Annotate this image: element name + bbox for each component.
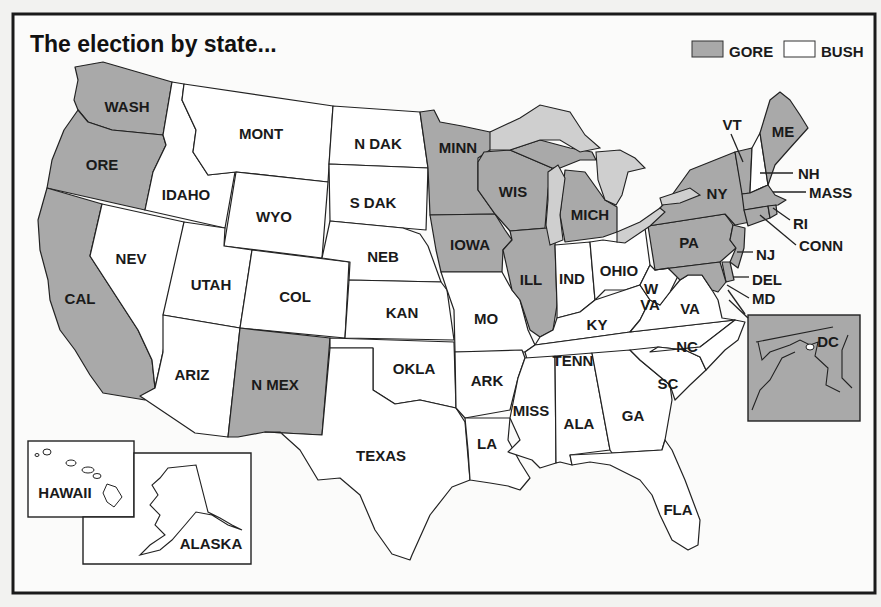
label-wyo: WYO: [256, 208, 292, 225]
label-ill: ILL: [520, 271, 543, 288]
label-nev: NEV: [116, 250, 147, 267]
hawaii-inset: HAWAII: [28, 441, 134, 517]
label-kan: KAN: [386, 304, 419, 321]
label-mich: MICH: [571, 206, 609, 223]
label-la: LA: [477, 435, 497, 452]
label-fla: FLA: [663, 501, 692, 518]
label-del: DEL: [752, 271, 782, 288]
label-mo: MO: [474, 310, 498, 327]
label-pa: PA: [679, 234, 699, 251]
legend-swatch-bush: [784, 41, 815, 57]
label-minn: MINN: [439, 139, 477, 156]
label-ri: RI: [793, 215, 808, 232]
label-s-dak: S DAK: [350, 194, 397, 211]
label-va: VA: [680, 300, 700, 317]
label-ark: ARK: [471, 372, 504, 389]
label-hawaii: HAWAII: [38, 484, 91, 501]
label-ind: IND: [559, 270, 585, 287]
label-ariz: ARIZ: [175, 366, 210, 383]
election-map-figure: The election by state... GORE BUSH: [0, 0, 881, 607]
label-conn: CONN: [799, 237, 843, 254]
legend-label-bush: BUSH: [821, 43, 864, 60]
label-miss: MISS: [513, 402, 550, 419]
label-ohio: OHIO: [600, 262, 639, 279]
label-mass: MASS: [809, 184, 852, 201]
label-alaska: ALASKA: [180, 535, 243, 552]
label-n-dak: N DAK: [354, 135, 402, 152]
label-idaho: IDAHO: [162, 186, 211, 203]
label-texas: TEXAS: [356, 447, 406, 464]
label-vt: VT: [722, 116, 741, 133]
label-w-va-line1: W: [644, 280, 659, 297]
map-title: The election by state...: [30, 31, 277, 57]
dc-inset: DC: [729, 300, 860, 421]
label-ga: GA: [622, 407, 645, 424]
label-n-mex: N MEX: [251, 376, 299, 393]
label-wash: WASH: [105, 98, 150, 115]
label-okla: OKLA: [393, 360, 436, 377]
label-nh: NH: [798, 165, 820, 182]
label-ny: NY: [707, 185, 728, 202]
label-ky: KY: [587, 316, 608, 333]
label-utah: UTAH: [191, 276, 232, 293]
label-wis: WIS: [499, 183, 527, 200]
legend-swatch-gore: [692, 41, 723, 57]
label-dc: DC: [817, 333, 839, 350]
dc-inset-box: [748, 315, 860, 421]
label-me: ME: [772, 123, 795, 140]
label-md: MD: [752, 290, 775, 307]
label-neb: NEB: [367, 248, 399, 265]
label-w-va-line2: VA: [640, 296, 660, 313]
legend-label-gore: GORE: [729, 43, 773, 60]
label-ala: ALA: [564, 415, 595, 432]
label-nc: NC: [676, 338, 698, 355]
label-nj: NJ: [756, 246, 775, 263]
label-cal: CAL: [65, 290, 96, 307]
label-tenn: TENN: [553, 352, 594, 369]
label-sc: SC: [658, 375, 679, 392]
label-ore: ORE: [86, 156, 119, 173]
label-col: COL: [279, 288, 311, 305]
label-mont: MONT: [239, 125, 283, 142]
label-iowa: IOWA: [450, 236, 490, 253]
